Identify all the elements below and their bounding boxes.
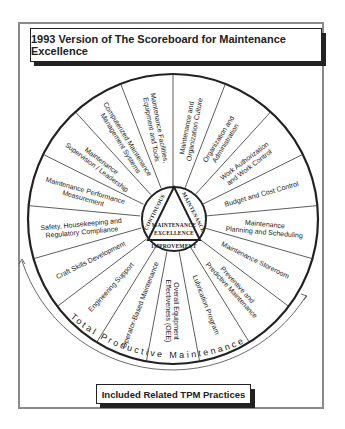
hub-center-line2: EXCELLENCE [154,230,194,236]
scoreboard-wheel: Maintenance andOrganization CultureOrgan… [0,0,345,429]
segment-label-line1: Overall Equipment [172,282,180,340]
segment-label-line2: Effectiveness (OEE) [164,280,172,343]
segment-label: Overall EquipmentEffectiveness (OEE) [164,280,180,343]
hub-center-line1: MAINTENANCE [152,222,196,228]
hub-bottom-label: IMPROVEMENT [151,243,196,249]
footer-label: Included Related TPM Practices [96,384,251,404]
